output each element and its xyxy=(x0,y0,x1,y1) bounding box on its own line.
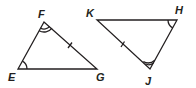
angle-e-arc xyxy=(22,61,27,69)
vertex-label-j: J xyxy=(145,75,152,87)
angle-h-arc xyxy=(168,20,173,28)
triangle-efg xyxy=(18,22,97,69)
vertex-label-h: H xyxy=(175,4,184,16)
vertex-label-e: E xyxy=(8,71,16,83)
triangle-khj xyxy=(97,20,177,69)
vertex-label-k: K xyxy=(86,7,95,19)
vertex-label-g: G xyxy=(96,71,105,83)
vertex-label-f: F xyxy=(38,8,45,20)
congruent-triangles-diagram: F E G K H J xyxy=(0,0,196,88)
